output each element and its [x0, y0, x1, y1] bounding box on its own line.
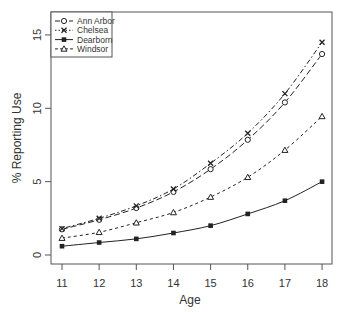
square-marker-icon — [320, 179, 325, 184]
series-dearborn — [60, 179, 325, 248]
triangle-marker-icon — [319, 113, 325, 118]
legend: Ann ArborChelseaDearbornWindsor — [51, 12, 115, 57]
x-tick-label: 11 — [56, 277, 67, 289]
diamond-marker-icon — [61, 18, 66, 23]
x-marker-icon — [208, 161, 213, 166]
triangle-marker-icon — [96, 229, 102, 234]
square-marker-icon — [97, 240, 102, 245]
diamond-marker-icon — [208, 167, 213, 172]
square-marker-icon — [62, 37, 67, 42]
diamond-marker-icon — [319, 51, 324, 56]
x-marker-icon — [282, 91, 287, 96]
x-tick-label: 18 — [316, 277, 328, 289]
triangle-marker-icon — [208, 194, 214, 199]
x-axis: 1112131415161718 — [56, 264, 328, 289]
x-tick-label: 15 — [204, 277, 216, 289]
square-marker-icon — [134, 237, 139, 242]
x-tick-label: 12 — [93, 277, 105, 289]
line-chart: 051015 1112131415161718 % Reporting Use … — [0, 0, 349, 312]
y-tick-label: 0 — [31, 252, 43, 258]
diamond-marker-icon — [282, 100, 287, 105]
x-axis-label: Age — [179, 293, 201, 307]
square-marker-icon — [208, 223, 213, 228]
y-tick-label: 5 — [31, 179, 43, 185]
y-tick-label: 15 — [31, 29, 43, 41]
x-marker-icon — [320, 40, 325, 45]
x-tick-label: 14 — [167, 277, 179, 289]
legend-label: Windsor — [77, 44, 108, 54]
series-line — [62, 54, 322, 229]
y-axis-label: % Reporting Use — [10, 92, 24, 183]
x-tick-label: 16 — [242, 277, 254, 289]
x-marker-icon — [245, 131, 250, 136]
y-axis: 051015 — [31, 29, 51, 258]
x-tick-label: 13 — [130, 277, 142, 289]
square-marker-icon — [283, 198, 288, 203]
series-group — [59, 40, 325, 249]
square-marker-icon — [171, 231, 176, 236]
diamond-marker-icon — [245, 137, 250, 142]
square-marker-icon — [245, 212, 250, 217]
square-marker-icon — [60, 244, 65, 249]
series-line — [62, 182, 322, 247]
triangle-marker-icon — [245, 174, 251, 179]
x-tick-label: 17 — [279, 277, 291, 289]
y-tick-label: 10 — [31, 102, 43, 114]
